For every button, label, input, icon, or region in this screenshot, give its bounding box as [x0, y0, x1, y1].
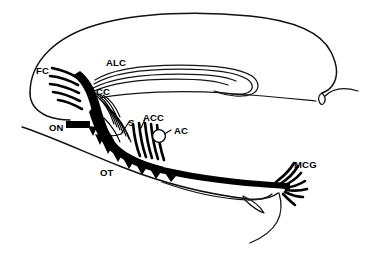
label-acc: ACC	[143, 113, 164, 123]
label-ot: OT	[100, 168, 114, 178]
label-cc: CC	[96, 87, 110, 97]
ac-commissure-circle	[153, 130, 166, 143]
figure-root: FC ALC CC ON S ACC AC OT MCG	[0, 0, 372, 256]
ac-leader-line	[165, 130, 172, 134]
label-s: S	[128, 118, 135, 128]
label-ac: AC	[174, 126, 188, 136]
ventral-cortical-band	[100, 92, 316, 101]
label-alc: ALC	[106, 58, 126, 68]
brain-dorsal-outline	[30, 13, 336, 93]
frontal-pole-outline	[30, 93, 70, 120]
label-on: ON	[49, 123, 64, 133]
brainstem-descending-line	[250, 193, 281, 243]
label-fc: FC	[36, 66, 49, 76]
caudal-right-tail	[325, 89, 358, 96]
on-nerve-stub	[66, 121, 90, 128]
caudal-notch-outline	[319, 93, 325, 104]
label-mcg: MCG	[294, 160, 317, 170]
